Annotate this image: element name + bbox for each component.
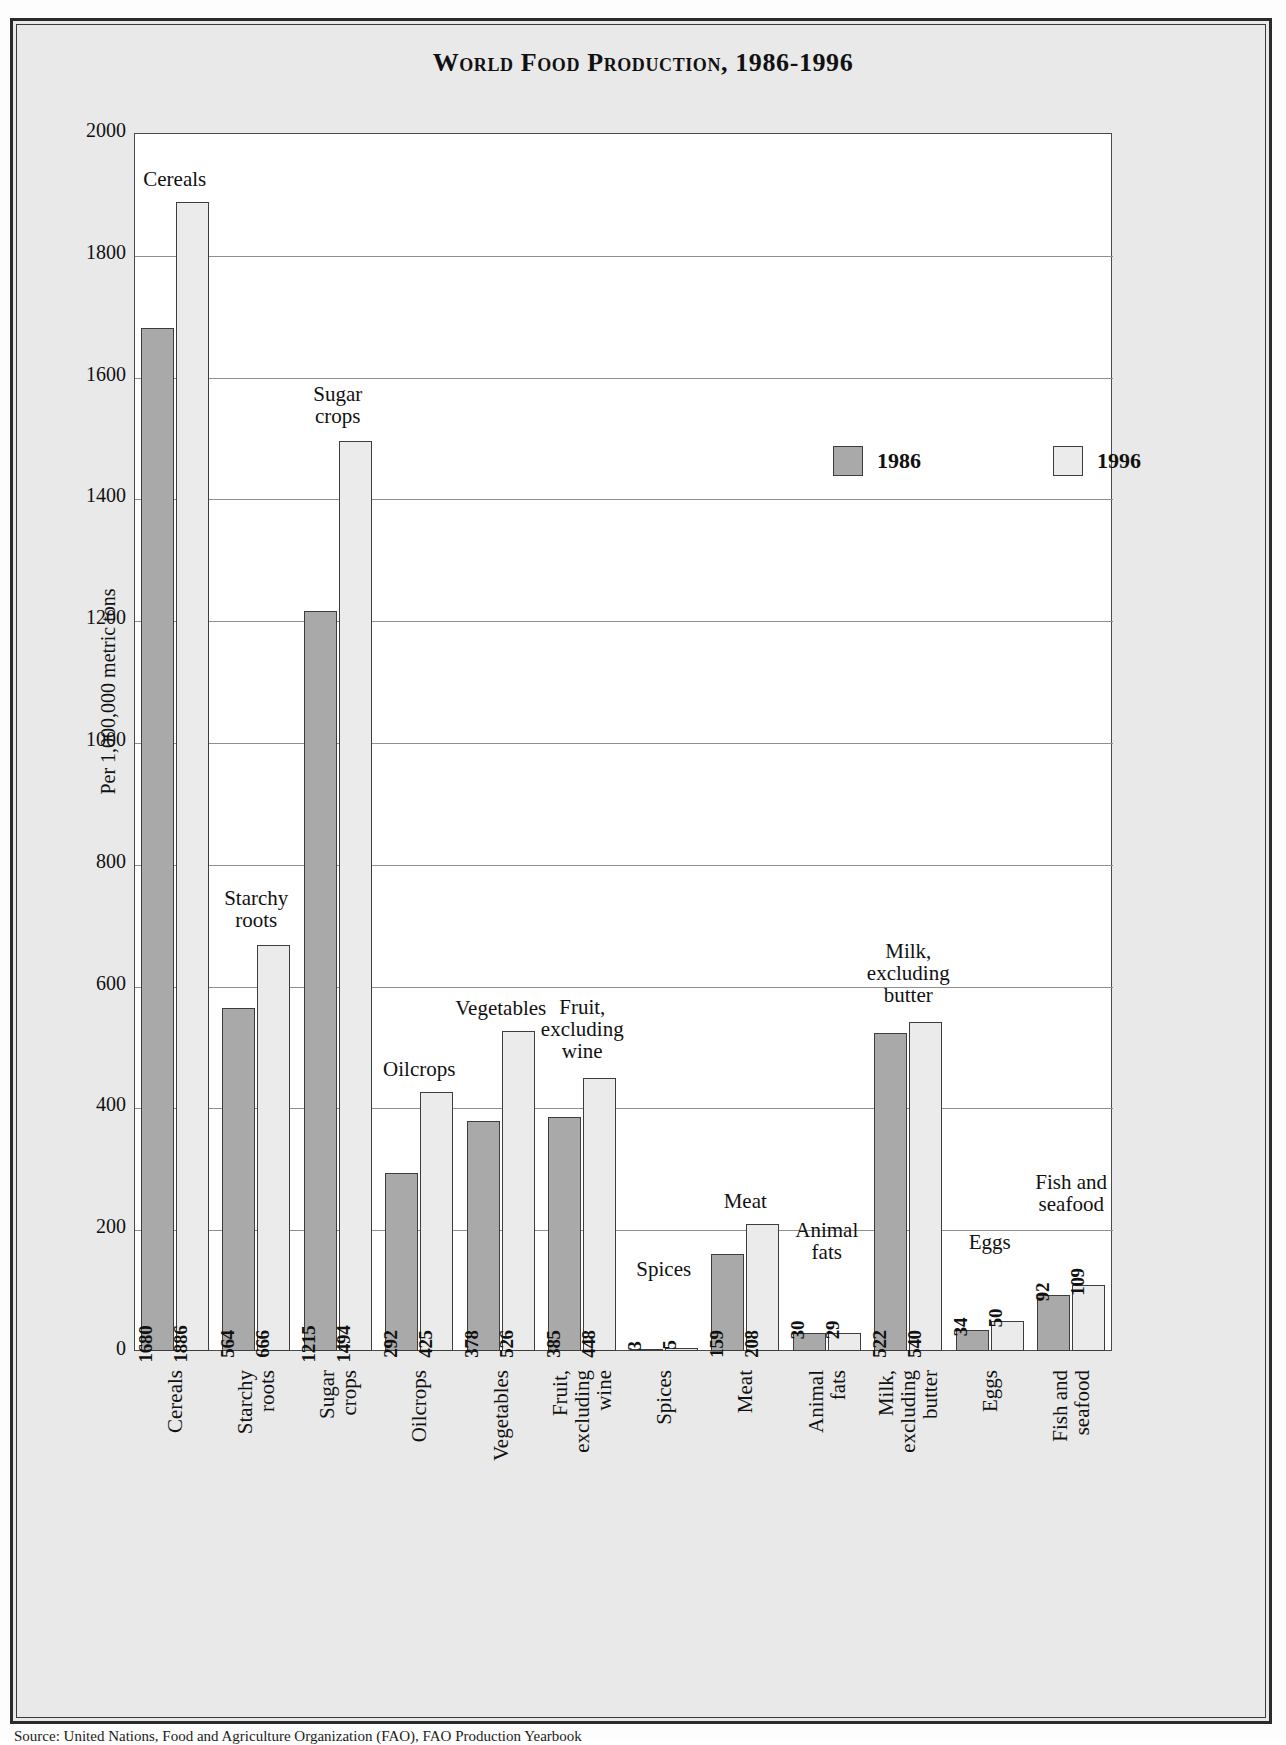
bar-value-label: 378 bbox=[461, 1330, 483, 1358]
bars-layer: 16801886Cereals564666Starchy roots121514… bbox=[134, 133, 1112, 1351]
legend-item-1996[interactable]: 1996 bbox=[1053, 446, 1141, 476]
legend-label-1986: 1986 bbox=[877, 448, 921, 474]
bar-value-label: 34 bbox=[950, 1318, 972, 1336]
bar-group: 378526 bbox=[467, 133, 535, 1351]
bar-1986[interactable]: 1215 bbox=[304, 611, 337, 1351]
bar-value-label: 5 bbox=[659, 1340, 681, 1349]
y-tick-label: 0 bbox=[56, 1337, 126, 1360]
bar-value-label: 30 bbox=[787, 1321, 809, 1339]
bar-value-label: 540 bbox=[904, 1330, 926, 1358]
bar-1996[interactable]: 666 bbox=[257, 945, 290, 1351]
bar-group: 12151494 bbox=[304, 133, 372, 1351]
bar-1986[interactable]: 3 bbox=[630, 1349, 663, 1351]
bar-1996[interactable]: 425 bbox=[420, 1092, 453, 1351]
bar-1996[interactable]: 50 bbox=[991, 1321, 1024, 1351]
group-label: Fish and seafood bbox=[966, 1171, 1176, 1215]
bar-value-label: 208 bbox=[741, 1330, 763, 1358]
bar-1996[interactable]: 540 bbox=[909, 1022, 942, 1351]
x-axis-label-text: Oilcrops bbox=[408, 1370, 430, 1560]
bar-group: 385448 bbox=[548, 133, 616, 1351]
bar-value-label: 1215 bbox=[298, 1326, 320, 1363]
x-axis-label-text: Sugar crops bbox=[316, 1370, 360, 1560]
x-axis-label-text: Animal fats bbox=[805, 1370, 849, 1560]
bar-value-label: 109 bbox=[1067, 1268, 1089, 1296]
bar-group: 3029 bbox=[793, 133, 861, 1351]
x-axis-label-text: Milk, excluding butter bbox=[875, 1370, 941, 1560]
bar-group: 16801886 bbox=[141, 133, 209, 1351]
bar-1986[interactable]: 564 bbox=[222, 1008, 255, 1351]
x-axis-label-text: Cereals bbox=[164, 1370, 186, 1560]
bar-1986[interactable]: 30 bbox=[793, 1333, 826, 1351]
bar-group: 564666 bbox=[222, 133, 290, 1351]
bar-value-label: 526 bbox=[496, 1330, 518, 1358]
bar-1986[interactable]: 1680 bbox=[141, 328, 174, 1351]
bar-value-label: 159 bbox=[706, 1330, 728, 1358]
x-axis-label-text: Fruit, excluding wine bbox=[549, 1370, 615, 1560]
y-axis-title: Per 1,000,000 metric tons bbox=[97, 382, 120, 1002]
bar-group: 159208 bbox=[711, 133, 779, 1351]
bar-1986[interactable]: 292 bbox=[385, 1173, 418, 1351]
bar-value-label: 1886 bbox=[170, 1326, 192, 1363]
bar-value-label: 522 bbox=[869, 1330, 891, 1358]
bar-value-label: 29 bbox=[822, 1321, 844, 1339]
page-title: World Food Production, 1986-1996 bbox=[0, 48, 1286, 78]
bar-group: 92109 bbox=[1037, 133, 1105, 1351]
bar-1996[interactable]: 29 bbox=[828, 1333, 861, 1351]
bar-value-label: 50 bbox=[985, 1308, 1007, 1326]
y-tick-label: 1800 bbox=[56, 241, 126, 264]
bar-1986[interactable]: 385 bbox=[548, 1117, 581, 1351]
y-tick-label: 2000 bbox=[56, 119, 126, 142]
bar-value-label: 92 bbox=[1032, 1283, 1054, 1301]
bar-1996[interactable]: 526 bbox=[502, 1031, 535, 1351]
bar-1996[interactable]: 1494 bbox=[339, 441, 372, 1351]
legend-swatch-1986 bbox=[833, 446, 863, 476]
bar-group: 35 bbox=[630, 133, 698, 1351]
bar-1986[interactable]: 378 bbox=[467, 1121, 500, 1351]
bar-group: 522540 bbox=[874, 133, 942, 1351]
bar-1986[interactable]: 92 bbox=[1037, 1295, 1070, 1351]
x-axis-label-text: Spices bbox=[653, 1370, 675, 1560]
bar-value-label: 564 bbox=[217, 1330, 239, 1358]
x-axis-labels: CerealsStarchy rootsSugar cropsOilcropsV… bbox=[134, 1360, 1112, 1560]
bar-1996[interactable]: 5 bbox=[665, 1348, 698, 1351]
legend-swatch-1996 bbox=[1053, 446, 1083, 476]
bar-1986[interactable]: 522 bbox=[874, 1033, 907, 1351]
x-axis-label-text: Vegetables bbox=[490, 1370, 512, 1560]
bar-1986[interactable]: 34 bbox=[956, 1330, 989, 1351]
x-axis-label-text: Meat bbox=[734, 1370, 756, 1560]
legend: 1986 1996 bbox=[833, 446, 1141, 476]
bar-1996[interactable]: 109 bbox=[1072, 1285, 1105, 1351]
bar-group: 292425 bbox=[385, 133, 453, 1351]
bar-value-label: 292 bbox=[380, 1330, 402, 1358]
bar-value-label: 1494 bbox=[333, 1326, 355, 1363]
bar-1996[interactable]: 1886 bbox=[176, 202, 209, 1351]
x-axis-label-text: Starchy roots bbox=[234, 1370, 278, 1560]
legend-item-1986[interactable]: 1986 bbox=[833, 446, 921, 476]
y-tick-label: 200 bbox=[56, 1215, 126, 1238]
bar-value-label: 425 bbox=[415, 1330, 437, 1358]
bar-value-label: 666 bbox=[252, 1330, 274, 1358]
bar-value-label: 385 bbox=[543, 1330, 565, 1358]
y-tick-label: 400 bbox=[56, 1093, 126, 1116]
bar-1986[interactable]: 159 bbox=[711, 1254, 744, 1351]
bar-group: 3450 bbox=[956, 133, 1024, 1351]
x-axis-label-text: Eggs bbox=[979, 1370, 1001, 1560]
bar-value-label: 448 bbox=[578, 1330, 600, 1358]
legend-label-1996: 1996 bbox=[1097, 448, 1141, 474]
x-axis-label-text: Fish and seafood bbox=[1049, 1370, 1093, 1560]
bar-value-label: 1680 bbox=[135, 1326, 157, 1363]
bar-value-label: 3 bbox=[624, 1341, 646, 1350]
source-caption: Source: United Nations, Food and Agricul… bbox=[14, 1728, 1254, 1745]
bar-1996[interactable]: 448 bbox=[583, 1078, 616, 1351]
